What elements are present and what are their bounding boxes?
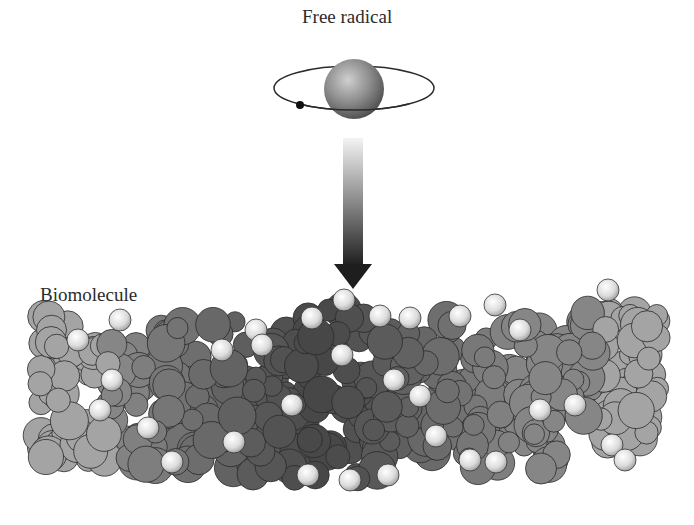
hydrogen-atom — [614, 449, 636, 471]
atom — [242, 379, 265, 402]
reaction-arrow — [334, 138, 372, 289]
hydrogen-atom — [425, 425, 447, 447]
atom — [218, 397, 256, 435]
atom — [557, 340, 582, 365]
atom — [371, 391, 402, 422]
atom — [196, 307, 231, 342]
atom — [483, 366, 506, 389]
hydrogen-atom — [339, 469, 361, 491]
atom — [631, 311, 662, 342]
hydrogen-atom — [251, 334, 273, 356]
hydrogen-atom — [67, 329, 89, 351]
hydrogen-atom — [399, 307, 421, 329]
hydrogen-atom — [223, 431, 245, 453]
atom — [263, 415, 296, 448]
atom — [618, 392, 654, 428]
hydrogen-atom — [485, 451, 507, 473]
free-radical — [274, 59, 434, 119]
atom — [526, 453, 557, 484]
hydrogen-atom — [333, 289, 355, 311]
atom — [128, 446, 164, 482]
hydrogen-atom — [564, 394, 586, 416]
atom — [524, 424, 545, 445]
hydrogen-atom — [281, 394, 303, 416]
atom — [367, 324, 402, 359]
hydrogen-atom — [101, 369, 123, 391]
hydrogen-atom — [484, 294, 506, 316]
atom — [87, 417, 122, 452]
atom — [363, 419, 385, 441]
atom — [297, 427, 322, 452]
atom — [326, 445, 350, 469]
hydrogen-atom — [449, 305, 471, 327]
atom — [167, 318, 188, 339]
hydrogen-atom — [161, 451, 183, 473]
hydrogen-atom — [89, 399, 111, 421]
hydrogen-atom — [377, 464, 399, 486]
unpaired-electron — [296, 101, 304, 109]
atom — [637, 347, 660, 370]
atom — [28, 372, 52, 396]
hydrogen-atom — [301, 307, 323, 329]
arrow-shaft — [343, 138, 363, 266]
arrow-head — [334, 264, 372, 289]
atom — [44, 334, 68, 358]
atom — [396, 414, 419, 437]
hydrogen-atom — [211, 339, 233, 361]
hydrogen-atom — [509, 319, 531, 341]
hydrogen-atom — [529, 399, 551, 421]
atom — [579, 332, 606, 359]
hydrogen-atom — [383, 369, 405, 391]
atom — [474, 347, 495, 368]
biomolecule-model — [23, 279, 670, 491]
hydrogen-atom — [137, 417, 159, 439]
hydrogen-atom — [331, 344, 353, 366]
diagram-canvas — [0, 0, 694, 525]
hydrogen-atom — [459, 449, 481, 471]
hydrogen-atom — [109, 309, 131, 331]
hydrogen-atom — [409, 385, 431, 407]
atom — [436, 379, 460, 403]
atom — [28, 439, 63, 474]
atom — [498, 432, 519, 453]
atom — [332, 386, 365, 419]
atom — [529, 362, 562, 395]
hydrogen-atom — [369, 305, 391, 327]
hydrogen-atom — [297, 464, 319, 486]
hydrogen-atom — [597, 279, 619, 301]
atom — [463, 414, 484, 435]
